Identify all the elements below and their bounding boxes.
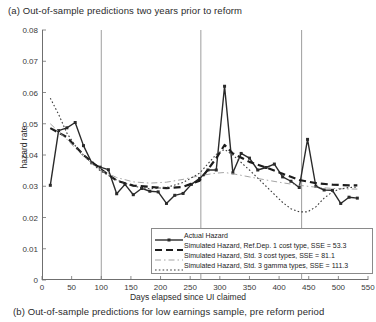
x-tick-label: 400 xyxy=(272,283,285,292)
x-tick-label: 350 xyxy=(243,283,256,292)
series-marker xyxy=(256,169,259,172)
series-marker xyxy=(82,144,85,147)
x-tick-label: 300 xyxy=(213,283,226,292)
series-marker xyxy=(107,168,110,171)
data-series-layer xyxy=(49,85,359,212)
legend-line-sample xyxy=(154,241,184,251)
series-marker xyxy=(265,166,268,169)
x-tick-label: 500 xyxy=(332,283,345,292)
series-line-2 xyxy=(50,124,357,189)
series-marker xyxy=(115,192,118,195)
series-marker xyxy=(148,190,151,193)
series-marker xyxy=(74,121,77,124)
series-marker xyxy=(215,169,218,172)
series-line-3 xyxy=(50,98,357,212)
series-marker xyxy=(240,152,243,155)
legend-entry-0: Actual Hazard xyxy=(154,231,369,241)
series-marker xyxy=(132,193,135,196)
legend-line-sample xyxy=(154,231,184,241)
series-marker xyxy=(273,163,276,166)
legend-entry-2: Simulated Hazard, Std. 3 cost types, SSE… xyxy=(154,251,369,261)
figure-caption-bottom: (b) Out-of-sample predictions for low ea… xyxy=(13,306,324,317)
series-marker xyxy=(165,202,168,205)
x-tick-label: 0 xyxy=(40,283,44,292)
series-marker xyxy=(339,202,342,205)
legend-entry-3: Simulated Hazard, Std. 3 gamma types, SS… xyxy=(154,261,369,271)
series-marker xyxy=(173,194,176,197)
x-tick-label: 100 xyxy=(95,283,108,292)
legend-label: Simulated Hazard, Std. 3 gamma types, SS… xyxy=(184,261,348,271)
series-marker xyxy=(281,175,284,178)
legend-label: Simulated Hazard, Std. 3 cost types, SSE… xyxy=(184,251,335,261)
series-marker xyxy=(65,126,68,129)
legend-line-sample xyxy=(154,261,184,271)
x-tick-label: 550 xyxy=(361,283,374,292)
legend-label: Simulated Hazard, Ref.Dep. 1 cost type, … xyxy=(184,241,346,251)
series-marker xyxy=(49,184,52,187)
series-marker xyxy=(157,190,160,193)
figure-panel: (a) Out-of-sample predictions two years … xyxy=(0,0,376,322)
series-marker xyxy=(306,138,309,141)
series-marker xyxy=(356,197,359,200)
x-tick-label: 250 xyxy=(183,283,196,292)
series-marker xyxy=(223,85,226,88)
series-line-0 xyxy=(50,86,357,203)
x-tick-label: 50 xyxy=(67,283,76,292)
x-tick-label: 200 xyxy=(154,283,167,292)
series-marker xyxy=(289,180,292,183)
legend-line-sample xyxy=(154,251,184,261)
series-marker xyxy=(248,157,251,160)
chart-legend: Actual HazardSimulated Hazard, Ref.Dep. … xyxy=(151,228,373,274)
series-marker xyxy=(182,192,185,195)
series-marker xyxy=(99,166,102,169)
x-tick-label: 450 xyxy=(302,283,315,292)
series-marker xyxy=(348,196,351,199)
x-tick-label: 150 xyxy=(124,283,137,292)
legend-label: Actual Hazard xyxy=(184,231,228,241)
series-marker xyxy=(323,189,326,192)
legend-entry-1: Simulated Hazard, Ref.Dep. 1 cost type, … xyxy=(154,241,369,251)
series-marker xyxy=(298,186,301,189)
